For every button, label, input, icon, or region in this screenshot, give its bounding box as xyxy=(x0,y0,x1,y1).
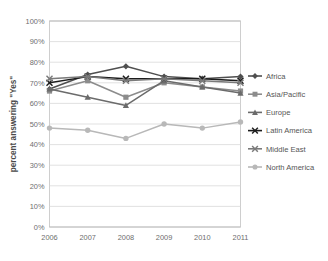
y-axis-label: percent answering "Yes" xyxy=(9,76,18,173)
y-tick-label: 90% xyxy=(30,37,45,46)
data-point xyxy=(123,136,128,141)
legend-item-latin-america[interactable]: Latin America xyxy=(248,126,313,135)
legend-marker xyxy=(252,164,257,169)
data-point xyxy=(238,119,243,124)
x-tick-label: 2010 xyxy=(194,233,210,242)
legend-item-middle-east[interactable]: Middle East xyxy=(248,145,307,154)
x-tick-label: 2009 xyxy=(156,233,172,242)
legend-label: Middle East xyxy=(266,145,307,154)
data-point xyxy=(200,125,205,130)
legend-label: Africa xyxy=(266,72,286,81)
legend-marker xyxy=(253,92,258,97)
x-tick-label: 2007 xyxy=(79,233,95,242)
y-tick-label: 40% xyxy=(30,140,45,149)
chart-container: 0%10%20%30%40%50%60%70%80%90%100% 200620… xyxy=(0,0,328,261)
data-point xyxy=(161,121,166,126)
legend-marker xyxy=(252,73,258,79)
legend-item-africa[interactable]: Africa xyxy=(248,72,286,81)
x-tick-label: 2008 xyxy=(118,233,134,242)
y-axis-title: percent answering "Yes" xyxy=(9,76,18,173)
x-axis-tick-labels: 200620072008200920102011 xyxy=(41,233,248,242)
y-tick-label: 100% xyxy=(26,17,45,26)
y-tick-label: 30% xyxy=(30,161,45,170)
legend-label: Asia/Pacific xyxy=(266,90,305,99)
y-tick-label: 0% xyxy=(34,223,45,232)
data-point xyxy=(123,95,128,100)
y-tick-label: 10% xyxy=(30,202,45,211)
y-tick-label: 80% xyxy=(30,58,45,67)
y-tick-label: 20% xyxy=(30,182,45,191)
legend: AfricaAsia/PacificEuropeLatin AmericaMid… xyxy=(248,72,315,172)
data-point xyxy=(85,127,90,132)
y-tick-label: 70% xyxy=(30,79,45,88)
y-axis-tick-labels: 0%10%20%30%40%50%60%70%80%90%100% xyxy=(26,17,45,232)
line-chart: 0%10%20%30%40%50%60%70%80%90%100% 200620… xyxy=(0,0,328,261)
legend-label: North America xyxy=(266,163,315,172)
legend-label: Europe xyxy=(266,108,291,117)
legend-item-asia-pacific[interactable]: Asia/Pacific xyxy=(248,90,305,99)
legend-label: Latin America xyxy=(266,126,313,135)
data-point xyxy=(47,125,52,130)
x-tick-label: 2006 xyxy=(41,233,57,242)
y-tick-label: 50% xyxy=(30,120,45,129)
legend-item-north-america[interactable]: North America xyxy=(248,163,315,172)
y-tick-label: 60% xyxy=(30,99,45,108)
x-tick-label: 2011 xyxy=(233,233,249,242)
legend-item-europe[interactable]: Europe xyxy=(248,108,291,117)
